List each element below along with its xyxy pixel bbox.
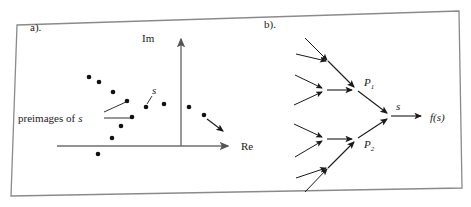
preimage-point (130, 115, 135, 120)
real-axis-label: Re (241, 140, 253, 152)
figure-border (11, 11, 462, 196)
image-point (202, 113, 207, 118)
branch-arrow-to-p1 (328, 61, 354, 87)
leaf-arrow (296, 168, 326, 178)
node-label-p2-sub: 2 (371, 145, 375, 153)
leaf-arrow (295, 141, 322, 157)
preimage-point (119, 124, 124, 129)
image-point (187, 105, 192, 110)
p2-to-root-arrow (358, 119, 387, 138)
preimage-point (110, 136, 115, 141)
p1-to-root-arrow (358, 91, 387, 113)
preimage-point (96, 152, 101, 157)
node-label-p1: P1 (363, 76, 374, 91)
panel-b-label: b). (264, 18, 276, 31)
branch-arrow-to-p2 (328, 142, 354, 168)
image-point (162, 102, 167, 107)
panel-a-label: a). (30, 21, 42, 34)
figure-container: a). Im Re preimages ofs (0, 0, 471, 207)
preimage-leader-line (104, 102, 126, 112)
panel-a: a). Im Re preimages ofs (18, 21, 253, 156)
leaf-arrow (305, 169, 327, 192)
node-label-p1-sub: 1 (371, 83, 375, 91)
preimage-point (87, 75, 92, 80)
image-points-group (144, 102, 207, 118)
leaf-arrow (295, 75, 322, 88)
leaf-arrow (294, 92, 322, 105)
preimages-annotation-text: preimages of (18, 112, 75, 124)
preimages-annotation: preimages ofs (18, 112, 82, 124)
image-point-s (144, 105, 149, 110)
leaf-arrow (294, 124, 322, 137)
panel-a-s-label: s (152, 84, 156, 96)
preimage-point (111, 90, 116, 95)
panel-a-flow-arrow (207, 119, 223, 131)
preimage-points-group (87, 75, 135, 157)
preimages-annotation-var: s (78, 112, 82, 124)
preimage-point (97, 80, 102, 85)
s-leader-line (147, 96, 152, 104)
branch-arrows-group (327, 61, 354, 168)
panel-b-s-label: s (396, 100, 400, 112)
leaf-arrows-group (294, 38, 327, 192)
figure-canvas: a). Im Re preimages ofs (0, 0, 471, 207)
output-label-fs: f(s) (430, 111, 445, 124)
imaginary-axis-label: Im (142, 32, 155, 44)
node-label-p2: P2 (363, 138, 375, 153)
panel-b: b). P1 (264, 18, 445, 192)
